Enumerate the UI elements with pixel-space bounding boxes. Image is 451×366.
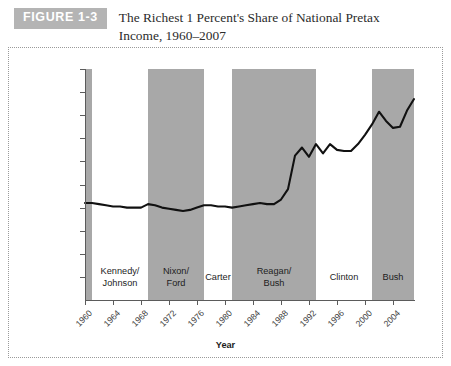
x-tick-9 xyxy=(337,300,338,305)
data-line xyxy=(85,99,414,211)
y-tick-2 xyxy=(80,231,85,232)
x-tick-5 xyxy=(225,300,226,305)
x-tick-1 xyxy=(113,300,114,305)
x-axis-title: Year xyxy=(0,340,451,350)
y-tick-4 xyxy=(80,185,85,186)
era-label-3-line2: Bush xyxy=(257,278,292,290)
figure-container: FIGURE 1-3 The Richest 1 Percent's Share… xyxy=(0,0,451,366)
era-label-3: Reagan/Bush xyxy=(257,266,292,289)
y-tick-3 xyxy=(80,208,85,209)
figure-number-badge: FIGURE 1-3 xyxy=(14,8,107,29)
x-tick-6 xyxy=(253,300,254,305)
figure-title: The Richest 1 Percent's Share of Nationa… xyxy=(119,8,419,44)
era-label-1-line2: Ford xyxy=(163,278,189,290)
y-tick-0 xyxy=(80,277,85,278)
era-label-4: Clinton xyxy=(330,272,359,284)
era-label-2: Carter xyxy=(205,272,231,284)
figure-header: FIGURE 1-3 The Richest 1 Percent's Share… xyxy=(14,8,438,44)
era-label-0: Kennedy/Johnson xyxy=(101,266,140,289)
x-tick-8 xyxy=(309,300,310,305)
x-tick-10 xyxy=(365,300,366,305)
x-tick-11 xyxy=(393,300,394,305)
era-label-5: Bush xyxy=(383,272,404,284)
y-tick-8 xyxy=(80,92,85,93)
y-tick-1 xyxy=(80,254,85,255)
era-label-1: Nixon/Ford xyxy=(163,266,189,289)
x-tick-4 xyxy=(197,300,198,305)
y-tick-9 xyxy=(80,69,85,70)
y-tick-6 xyxy=(80,138,85,139)
era-label-0-line2: Johnson xyxy=(101,278,140,290)
y-tick-7 xyxy=(80,115,85,116)
x-tick-7 xyxy=(281,300,282,305)
x-tick-2 xyxy=(141,300,142,305)
y-axis-line xyxy=(85,69,86,301)
x-tick-3 xyxy=(169,300,170,305)
y-tick-5 xyxy=(80,161,85,162)
x-tick-0 xyxy=(85,300,86,305)
